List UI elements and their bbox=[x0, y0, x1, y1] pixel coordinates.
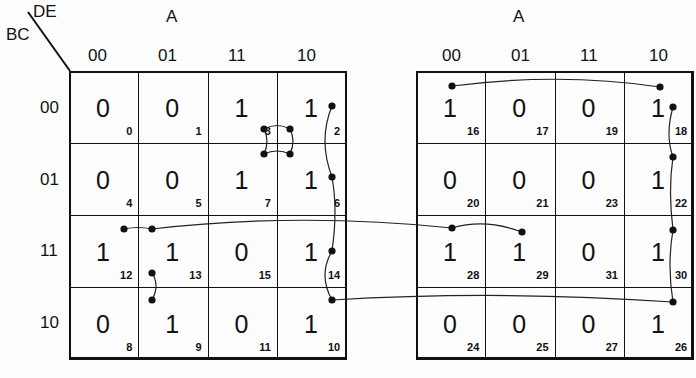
grouping-links bbox=[0, 0, 696, 378]
